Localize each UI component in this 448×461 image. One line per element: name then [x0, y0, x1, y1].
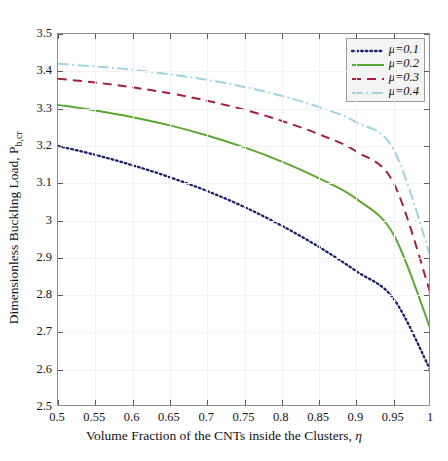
x-axis-tick [394, 400, 395, 405]
gridline-vertical [95, 34, 96, 405]
x-tick-label: 0.65 [158, 410, 180, 425]
x-tick-label: 0.75 [233, 410, 255, 425]
x-axis-tick [245, 400, 246, 405]
gridline-vertical [319, 34, 320, 405]
y-axis-tick [58, 332, 63, 333]
gridline-horizontal [58, 109, 429, 110]
y-axis-title-text: Dimensionless Buckling Load, P [6, 146, 21, 324]
legend-item-mu-0-1[interactable]: μ=0.1 [351, 42, 419, 56]
legend-item-mu-0-2[interactable]: μ=0.2 [351, 56, 419, 70]
gridline-horizontal [58, 332, 429, 333]
y-axis-tick [58, 146, 63, 147]
gridline-horizontal [58, 370, 429, 371]
x-axis-tick [95, 34, 96, 39]
y-axis-tick [424, 34, 429, 35]
y-axis-tick [424, 71, 429, 72]
gridline-horizontal [58, 295, 429, 296]
x-axis-title: Volume Fraction of the CNTs inside the C… [0, 428, 448, 444]
y-axis-tick [58, 71, 63, 72]
x-axis-tick [356, 34, 357, 39]
x-axis-tick [207, 400, 208, 405]
y-axis-tick [58, 370, 63, 371]
x-axis-tick [319, 34, 320, 39]
x-tick-label: 0.85 [307, 410, 329, 425]
plot-area: μ=0.1μ=0.2μ=0.3μ=0.4 [57, 33, 430, 406]
y-axis-title: Dimensionless Buckling Load, Pb,cr [6, 63, 24, 393]
x-tick-label: 0.55 [83, 410, 105, 425]
x-axis-tick [95, 400, 96, 405]
y-axis-tick [424, 295, 429, 296]
gridline-vertical [245, 34, 246, 405]
x-axis-tick [170, 34, 171, 39]
gridline-horizontal [58, 258, 429, 259]
gridline-horizontal [58, 146, 429, 147]
gridline-vertical [394, 34, 395, 405]
y-axis-tick [58, 258, 63, 259]
x-axis-tick [245, 34, 246, 39]
y-axis-tick [424, 146, 429, 147]
x-axis-tick [207, 34, 208, 39]
gridline-vertical [207, 34, 208, 405]
x-tick-label: 0.6 [124, 410, 140, 425]
y-axis-tick [58, 221, 63, 222]
y-axis-tick [424, 221, 429, 222]
y-axis-tick [424, 370, 429, 371]
y-axis-tick [58, 295, 63, 296]
x-axis-tick [394, 34, 395, 39]
gridline-horizontal [58, 221, 429, 222]
gridline-horizontal [58, 183, 429, 184]
y-axis-title-subscript: b,cr [13, 132, 24, 147]
x-axis-tick [133, 34, 134, 39]
x-axis-tick [133, 400, 134, 405]
x-tick-label: 0.9 [348, 410, 364, 425]
gridline-vertical [170, 34, 171, 405]
x-axis-tick [282, 34, 283, 39]
gridline-vertical [356, 34, 357, 405]
y-axis-tick [424, 109, 429, 110]
y-axis-tick [58, 183, 63, 184]
y-axis-tick [58, 34, 63, 35]
eta-symbol: η [355, 428, 362, 443]
x-tick-label: 0.8 [273, 410, 289, 425]
x-axis-tick [170, 400, 171, 405]
y-axis-tick [424, 332, 429, 333]
y-axis-tick [424, 258, 429, 259]
x-axis-tick [356, 400, 357, 405]
x-axis-title-text: Volume Fraction of the CNTs inside the C… [86, 428, 355, 443]
x-tick-label: 0.95 [382, 410, 404, 425]
x-axis-tick [58, 400, 59, 405]
gridline-vertical [282, 34, 283, 405]
y-tick-label: 2.5 [18, 399, 52, 414]
legend[interactable]: μ=0.1μ=0.2μ=0.3μ=0.4 [346, 38, 425, 102]
gridline-vertical [133, 34, 134, 405]
x-tick-label: 0.7 [198, 410, 214, 425]
figure-container: μ=0.1μ=0.2μ=0.3μ=0.4 0.50.550.60.650.70.… [0, 0, 448, 461]
y-axis-tick [58, 109, 63, 110]
y-tick-label: 3.5 [18, 26, 52, 41]
x-axis-tick [319, 400, 320, 405]
y-axis-tick [424, 183, 429, 184]
gridline-horizontal [58, 71, 429, 72]
x-axis-tick [282, 400, 283, 405]
x-tick-label: 1 [427, 410, 433, 425]
legend-item-mu-0-4[interactable]: μ=0.4 [351, 84, 419, 98]
